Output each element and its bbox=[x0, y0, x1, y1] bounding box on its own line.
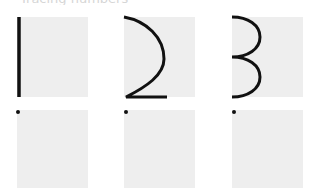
trace-box-1[interactable] bbox=[17, 17, 88, 97]
practice-box-1[interactable] bbox=[17, 110, 88, 188]
numeral-2-glyph bbox=[124, 17, 195, 97]
worksheet-title-fragment: Tracing numbers bbox=[0, 0, 312, 5]
practice-box-2[interactable] bbox=[124, 110, 195, 188]
start-dot-1 bbox=[16, 110, 20, 114]
numeral-3-glyph bbox=[232, 17, 303, 97]
start-dot-3 bbox=[232, 110, 236, 114]
trace-box-2[interactable] bbox=[124, 17, 195, 97]
trace-box-3[interactable] bbox=[232, 17, 303, 97]
practice-box-3[interactable] bbox=[232, 110, 303, 188]
title-text: Tracing numbers bbox=[20, 0, 128, 5]
start-dot-2 bbox=[124, 110, 128, 114]
numeral-1-glyph bbox=[17, 17, 88, 97]
